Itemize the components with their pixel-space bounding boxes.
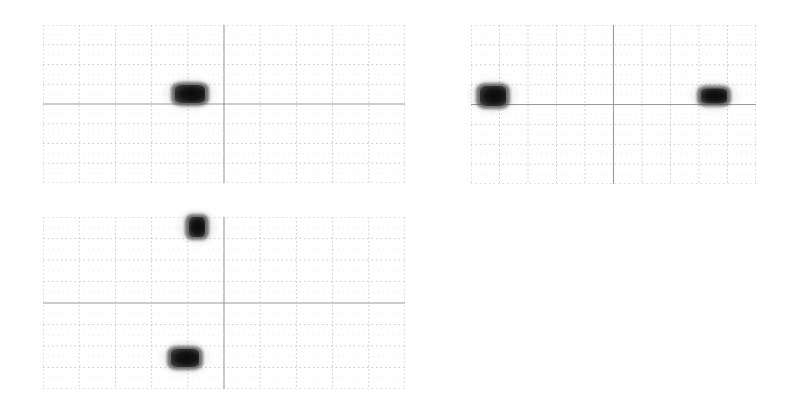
scope-panel-2	[471, 25, 756, 184]
graticule-grid	[43, 25, 405, 183]
scope-panel-1	[43, 25, 405, 183]
scope-panel-3	[43, 217, 405, 389]
graticule-grid	[43, 217, 405, 389]
graticule-grid	[471, 25, 756, 184]
